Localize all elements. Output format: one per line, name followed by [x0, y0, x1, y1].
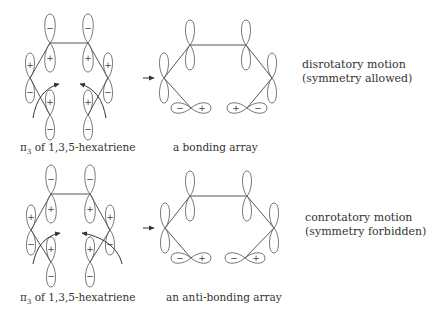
svg-text:+: + [47, 244, 55, 254]
svg-text:−: − [84, 23, 92, 33]
svg-text:+: + [198, 253, 206, 263]
carbon-backbone [30, 43, 108, 115]
bottom-molecule-caption: π3 of 1,3,5-hexatriene [20, 291, 135, 306]
svg-text:+: + [27, 212, 35, 222]
svg-text:−: − [47, 174, 55, 184]
svg-text:−: − [176, 103, 184, 113]
svg-text:+: + [252, 253, 260, 263]
top-molecule-caption: π3 of 1,3,5-hexatriene [20, 141, 135, 156]
svg-text:+: + [46, 53, 54, 63]
motion-type: disrotatory motion [302, 58, 412, 72]
svg-text:−: − [46, 124, 54, 134]
svg-text:+: + [46, 97, 54, 107]
bottom-hexatriene-molecule: − + − + + − + − + − + − [27, 165, 123, 287]
p-orbital-bottom-right: + − [84, 90, 93, 140]
svg-text:+: + [104, 60, 112, 70]
top-hexatriene-molecule: − + − + + − + − + − + − [26, 14, 113, 140]
svg-text:+: + [198, 103, 206, 113]
carbon-backbone [165, 196, 274, 258]
rotated-orbital-left: − + [171, 103, 211, 114]
svg-text:+: + [232, 103, 240, 113]
carbon-backbone [164, 45, 272, 108]
svg-text:+: + [26, 60, 34, 70]
svg-text:+: + [106, 212, 114, 222]
svg-text:−: − [86, 271, 94, 281]
svg-text:−: − [84, 124, 92, 134]
motion-type: conrotatory motion [305, 211, 426, 225]
svg-text:−: − [104, 87, 112, 97]
rotated-orbital-right: − + [225, 253, 265, 264]
svg-text:−: − [47, 271, 55, 281]
carbon-backbone [31, 194, 110, 262]
hexatriene-electrocyclic-diagram: − + − + + − + − + − + − [0, 0, 432, 318]
anti-bonding-array: − + − + [161, 171, 279, 263]
p-orbital-left: + − [26, 53, 35, 103]
svg-text:−: − [27, 239, 35, 249]
svg-text:+: + [84, 53, 92, 63]
svg-text:−: − [176, 253, 184, 263]
symmetry-status: (symmetry forbidden) [305, 225, 426, 239]
bonding-array: − + + − [160, 20, 277, 113]
bottom-side-label: conrotatory motion (symmetry forbidden) [305, 211, 426, 239]
bonding-array-caption: a bonding array [173, 141, 258, 153]
svg-text:−: − [86, 174, 94, 184]
rotated-orbital-left: − + [171, 253, 211, 264]
top-side-label: disrotatory motion (symmetry allowed) [302, 58, 412, 86]
symmetry-status: (symmetry allowed) [302, 72, 412, 86]
p-orbital-bottom-left: + − [46, 90, 55, 140]
svg-text:−: − [46, 23, 54, 33]
svg-text:+: + [86, 244, 94, 254]
anti-bonding-array-caption: an anti-bonding array [166, 291, 282, 303]
p-orbital-right: + − [104, 53, 113, 103]
rotated-orbital-right: + − [227, 103, 267, 114]
svg-text:−: − [26, 87, 34, 97]
svg-text:−: − [230, 253, 238, 263]
svg-text:−: − [254, 103, 262, 113]
svg-text:+: + [86, 204, 94, 214]
svg-text:+: + [47, 204, 55, 214]
svg-text:+: + [84, 97, 92, 107]
